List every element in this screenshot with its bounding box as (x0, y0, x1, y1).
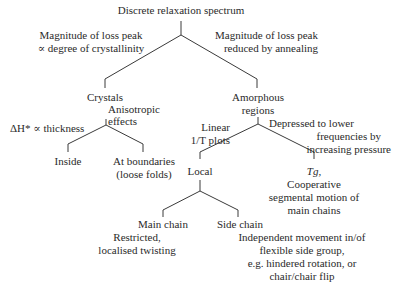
main-chain-description: Restricted, localised twisting (92, 231, 182, 257)
edge-label-annealing: Magnitude of loss peak reduced by anneal… (200, 29, 318, 55)
edge-label-crystallinity: Magnitude of loss peak ∝ degree of cryst… (26, 29, 156, 55)
linear-plots-label: Linear 1/T plots (176, 121, 230, 147)
side-chain-description: Independent movement in/of flexible side… (232, 231, 372, 283)
edge-local-mainchain (163, 180, 200, 217)
local-node: Local (180, 165, 220, 178)
side-chain-node: Side chain (210, 218, 270, 231)
edge-local-sidechain (200, 191, 238, 217)
tg-description: Cooperative segmental motion of main cha… (262, 178, 366, 217)
amorphous-node: Amorphous regions (225, 91, 291, 117)
anisotropic-effects-label: Anisotropic effects (108, 103, 168, 127)
pressure-label: Depressed to lower frequencies by increa… (266, 117, 391, 156)
tg-node: Tg, (284, 165, 344, 178)
inside-node: Inside (43, 155, 93, 168)
enthalpy-thickness-label: ΔH* ∝ thickness (10, 122, 84, 135)
edge-crystals-boundaries (106, 125, 143, 152)
main-chain-node: Main chain (130, 218, 196, 231)
root-node: Discrete relaxation spectrum (96, 4, 266, 17)
boundaries-node: At boundaries (loose folds) (105, 155, 183, 181)
relaxation-spectrum-diagram: Discrete relaxation spectrum Magnitude o… (0, 0, 399, 285)
